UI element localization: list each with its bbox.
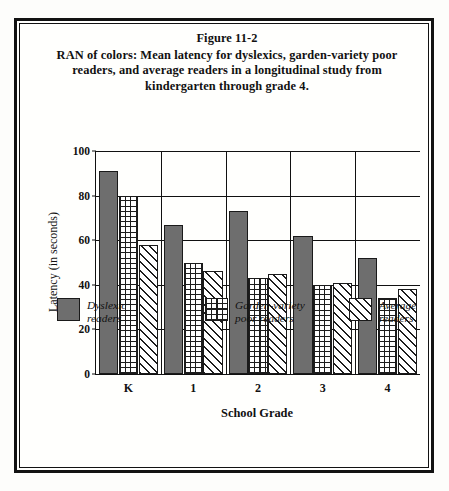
gridline xyxy=(96,196,420,197)
figure-frame: Figure 11-2 RAN of colors: Mean latency … xyxy=(14,18,434,473)
category-divider xyxy=(161,151,162,374)
legend-label: Averagereaders xyxy=(379,298,416,326)
y-axis-title: Latency (in seconds) xyxy=(46,212,61,312)
legend-label-line2: poor readers xyxy=(235,312,305,325)
legend-label-line1: Garden-variety xyxy=(235,299,305,312)
y-axis-tick-label: 0 xyxy=(84,368,90,380)
x-axis-tick-label: 3 xyxy=(320,381,326,396)
y-axis-tick-mark xyxy=(92,195,96,196)
plot-area: 020406080100K1234 xyxy=(95,151,420,375)
legend-item: Dyslexicreaders xyxy=(57,298,126,326)
bar-chart: Latency (in seconds) School Grade 020406… xyxy=(17,21,437,476)
x-axis-title: School Grade xyxy=(221,406,293,421)
plot-top-border xyxy=(96,151,420,152)
x-axis-tick-label: 4 xyxy=(385,381,391,396)
y-axis-tick-mark xyxy=(92,151,96,152)
category-divider xyxy=(290,151,291,374)
bar xyxy=(99,171,118,374)
y-axis-tick-mark xyxy=(92,240,96,241)
legend-swatch xyxy=(205,298,228,321)
legend-label-line1: Average xyxy=(379,299,416,312)
y-axis-tick-label: 60 xyxy=(79,234,91,246)
category-divider xyxy=(226,151,227,374)
figure-page: Figure 11-2 RAN of colors: Mean latency … xyxy=(0,0,449,491)
y-axis-tick-label: 40 xyxy=(79,279,91,291)
x-axis-tick-label: K xyxy=(124,381,133,396)
legend-item: Averagereaders xyxy=(349,298,416,326)
legend-swatch xyxy=(349,298,372,321)
x-axis-tick-label: 2 xyxy=(255,381,261,396)
legend-item: Garden-varietypoor readers xyxy=(205,298,305,326)
legend-label-line2: readers xyxy=(379,312,416,325)
x-axis-tick-label: 1 xyxy=(190,381,196,396)
bar xyxy=(229,211,248,374)
category-divider xyxy=(355,151,356,374)
legend-swatch xyxy=(57,298,80,321)
legend-label-line1: Dyslexic xyxy=(87,299,126,312)
legend-label: Dyslexicreaders xyxy=(87,298,126,326)
gridline xyxy=(96,240,420,241)
y-axis-tick-label: 80 xyxy=(79,190,91,202)
bar xyxy=(119,196,138,374)
chart-legend: DyslexicreadersGarden-varietypoor reader… xyxy=(57,298,405,334)
y-axis-tick-label: 100 xyxy=(73,145,90,157)
y-axis-tick-mark xyxy=(92,374,96,375)
y-axis-tick-mark xyxy=(92,284,96,285)
legend-label: Garden-varietypoor readers xyxy=(235,298,305,326)
legend-label-line2: readers xyxy=(87,312,126,325)
